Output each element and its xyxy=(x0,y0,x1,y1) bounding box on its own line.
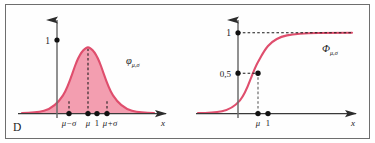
pdf-x-tick-dot-mu xyxy=(85,111,90,116)
plate-label: D xyxy=(13,121,21,133)
pdf-x-tick-label-mu: μ xyxy=(85,118,91,128)
pdf-y-tick-label-1: 1 xyxy=(45,36,50,46)
cdf-curve-label: Φμ,σ xyxy=(322,43,339,56)
cdf-curve-subscript: μ,σ xyxy=(330,49,339,56)
pdf-x-tick-dot-mu-plus-sigma xyxy=(104,111,109,116)
pdf-x-tick-dot-mu-minus-sigma xyxy=(66,111,71,116)
pdf-x-tick-dot-one xyxy=(94,111,99,116)
figure-canvas: 1 μ−σ μ 1 μ+σ x φμ,σ xyxy=(0,0,375,143)
cdf-y-tick-label-half: 0,5 xyxy=(220,69,232,79)
pdf-x-axis-label: x xyxy=(160,118,165,128)
pdf-y-tick-dot-1 xyxy=(54,37,59,42)
pdf-x-tick-label-one: 1 xyxy=(95,118,99,128)
cdf-y-tick-dot-1 xyxy=(235,30,240,35)
pdf-curve-label: φμ,σ xyxy=(126,55,140,68)
cdf-y-tick-dot-half xyxy=(235,71,240,76)
cdf-x-tick-label-one: 1 xyxy=(266,118,270,128)
cdf-y-tick-label-1: 1 xyxy=(226,28,231,38)
cdf-x-axis-label: x xyxy=(350,118,355,128)
pdf-x-tick-label-mu-plus-sigma: μ+σ xyxy=(102,118,118,128)
cdf-curve-symbol: Φ xyxy=(322,43,330,54)
cdf-x-tick-dot-one xyxy=(265,111,270,116)
cdf-x-tick-dot-mu xyxy=(255,111,260,116)
cdf-panel: 1 0,5 μ 1 x Φμ,σ xyxy=(196,20,356,128)
cdf-curve-point-mu-half xyxy=(255,71,260,76)
pdf-panel: 1 μ−σ μ 1 μ+σ x φμ,σ xyxy=(18,20,166,128)
pdf-curve-subscript: μ,σ xyxy=(132,61,141,68)
cdf-x-tick-label-mu: μ xyxy=(255,118,261,128)
pdf-x-tick-label-mu-minus-sigma: μ−σ xyxy=(61,118,77,128)
figure-root: 1 μ−σ μ 1 μ+σ x φμ,σ xyxy=(0,0,375,143)
